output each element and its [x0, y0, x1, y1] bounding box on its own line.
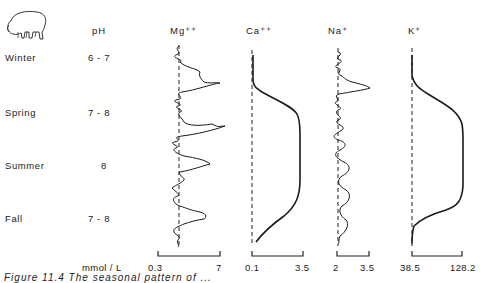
k-min-tick: 38.5	[400, 262, 420, 273]
mg-max-tick: 7	[216, 262, 222, 273]
na-scale-bar	[337, 251, 369, 256]
mg-scale-bar	[158, 251, 220, 256]
ca-max-tick: 3.5	[295, 262, 309, 273]
na-trace	[334, 52, 370, 244]
k-trace	[412, 55, 463, 244]
na-min-tick: 2	[333, 262, 339, 273]
ca-min-tick: 0.1	[245, 262, 259, 273]
ca-trace	[253, 55, 300, 242]
figure-caption: Figure 11.4 The seasonal pattern of ...	[4, 272, 212, 283]
mg-trace	[172, 46, 225, 247]
k-scale-bar	[412, 251, 462, 256]
k-max-tick: 128.2	[450, 262, 476, 273]
ca-scale-bar	[252, 251, 303, 256]
na-max-tick: 3.5	[360, 262, 374, 273]
